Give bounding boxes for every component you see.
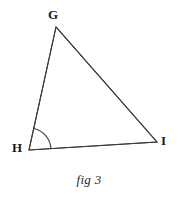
vertex-label-g: G — [48, 8, 58, 21]
figure-caption: fig 3 — [0, 172, 178, 187]
edge-hi — [29, 142, 157, 150]
angle-arc-h-icon — [34, 129, 51, 149]
triangle-ghi-outline — [29, 27, 157, 150]
triangle-diagram-canvas — [0, 0, 178, 197]
edge-gh — [29, 27, 56, 150]
edge-gi — [56, 27, 157, 142]
vertex-label-h: H — [12, 141, 22, 154]
vertex-label-i: I — [161, 134, 166, 147]
figure-container: G H I fig 3 — [0, 0, 178, 197]
